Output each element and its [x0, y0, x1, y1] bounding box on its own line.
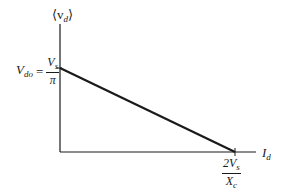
y-axis-label-close: ⟩ [68, 7, 73, 22]
numerator-sub: s [55, 61, 59, 71]
fraction-numerator: Vs [46, 56, 59, 73]
x-axis-label: Id [262, 146, 271, 162]
vdo-main: V [16, 62, 24, 77]
x-intercept-label: 2Vs Xc [222, 157, 241, 190]
y-intercept-label: Vdo = Vs π [16, 56, 59, 86]
vdo-sub: do [24, 69, 33, 79]
2vs-over-xc-fraction: 2Vs Xc [222, 157, 241, 190]
denominator-sub: c [233, 180, 237, 190]
numerator-main: V [47, 55, 54, 69]
vdo-symbol: Vdo [16, 63, 33, 79]
numerator-sub: s [236, 162, 240, 172]
fraction-numerator: 2Vs [222, 157, 241, 174]
denominator-main: X [226, 174, 233, 188]
fraction-denominator: π [50, 73, 56, 86]
x-axis-label-sub: d [266, 152, 271, 162]
numerator-main: 2V [223, 156, 236, 170]
y-axis-label: ⟨vd⟩ [52, 8, 73, 24]
y-axis-label-main: ⟨v [52, 7, 64, 22]
fraction-denominator: Xc [226, 174, 237, 190]
vs-over-pi-fraction: Vs π [46, 56, 59, 86]
diagram-canvas [0, 0, 307, 196]
equals-sign: = [36, 65, 43, 78]
characteristic-line [60, 68, 235, 152]
